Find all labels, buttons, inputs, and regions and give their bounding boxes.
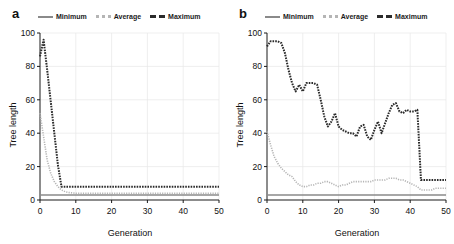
panel-a-gridlines [40, 33, 219, 200]
series-line-maximum [267, 41, 446, 180]
figure-container: a Minimum Average Maximum 02040608010001… [0, 0, 454, 244]
xtick-0: 0 [38, 206, 43, 216]
xtick-30: 30 [143, 206, 153, 216]
ytick-0: 0 [30, 195, 35, 205]
panel-a-xlabel: Generation [108, 228, 153, 238]
ytick-20: 20 [253, 162, 263, 172]
panel-b-ylabel: Tree length [235, 102, 245, 147]
xtick-0: 0 [265, 206, 270, 216]
xtick-40: 40 [405, 206, 415, 216]
panel-b-xlabel: Generation [335, 228, 380, 238]
ytick-40: 40 [253, 128, 263, 138]
xtick-30: 30 [370, 206, 380, 216]
ytick-80: 80 [26, 61, 36, 71]
ytick-100: 100 [21, 28, 35, 38]
panel-a-ticklabels: 02040608010001020304050 [21, 28, 224, 216]
xtick-40: 40 [178, 206, 188, 216]
xtick-50: 50 [214, 206, 224, 216]
panel-a-plot: 02040608010001020304050 Generation Tree … [0, 0, 227, 244]
ytick-60: 60 [26, 95, 36, 105]
panel-b-plot: 02040608010001020304050 Generation Tree … [227, 0, 454, 244]
panel-b-series [267, 41, 446, 195]
xtick-10: 10 [298, 206, 308, 216]
ytick-100: 100 [248, 28, 262, 38]
xtick-20: 20 [107, 206, 117, 216]
series-line-average [40, 113, 219, 193]
ytick-80: 80 [253, 61, 263, 71]
xtick-20: 20 [334, 206, 344, 216]
ytick-60: 60 [253, 95, 263, 105]
panel-a-axes [37, 33, 219, 203]
series-line-maximum [40, 40, 219, 187]
panel-a-series [40, 40, 219, 195]
ytick-40: 40 [26, 128, 36, 138]
panel-a-ylabel: Tree length [8, 102, 18, 147]
ytick-0: 0 [257, 195, 262, 205]
panel-a: a Minimum Average Maximum 02040608010001… [0, 0, 227, 244]
xtick-50: 50 [441, 206, 451, 216]
xtick-10: 10 [71, 206, 81, 216]
panel-b: b Minimum Average Maximum 02040608010001… [227, 0, 454, 244]
panel-b-ticklabels: 02040608010001020304050 [248, 28, 451, 216]
panel-b-gridlines [267, 33, 446, 200]
ytick-20: 20 [26, 162, 36, 172]
